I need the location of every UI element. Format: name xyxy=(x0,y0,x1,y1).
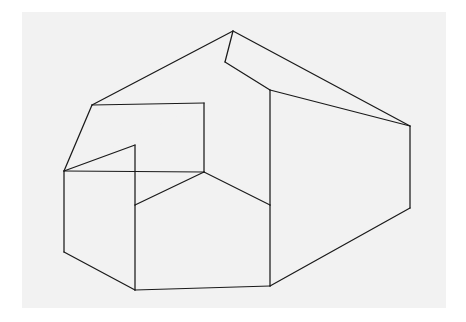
drawing-canvas xyxy=(0,0,466,322)
isometric-solid-figure xyxy=(0,0,466,322)
